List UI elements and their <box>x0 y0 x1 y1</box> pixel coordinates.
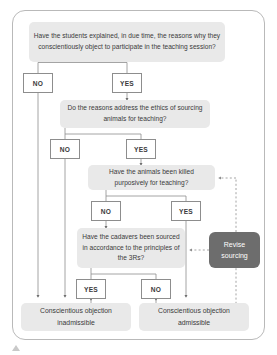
result-node-admissible: Conscientious objection admissible <box>139 303 249 331</box>
choice-q4-yes[interactable]: YES <box>76 279 106 299</box>
question-node-q2: Do the reasons address the ethics of sou… <box>60 100 210 128</box>
choice-q1-no[interactable]: NO <box>23 73 53 93</box>
choice-q3-yes[interactable]: YES <box>171 201 201 221</box>
choice-q2-no[interactable]: NO <box>50 139 80 159</box>
flowchart-canvas: Have the students explained, in due time… <box>0 0 277 355</box>
action-node-revise-sourcing[interactable]: Revise sourcing <box>209 232 260 268</box>
result-node-inadmissible: Conscientious objection inadmissible <box>21 303 131 331</box>
choice-q2-yes[interactable]: YES <box>126 139 156 159</box>
choice-q3-no[interactable]: NO <box>91 201 121 221</box>
question-node-q3: Have the animals been killed purposively… <box>88 165 215 190</box>
scroll-caret-icon <box>12 345 20 351</box>
question-node-q4: Have the cadavers been sourced in accord… <box>77 228 185 268</box>
choice-q1-yes[interactable]: YES <box>112 73 142 93</box>
question-node-q1: Have the students explained, in due time… <box>29 22 225 62</box>
choice-q4-no[interactable]: NO <box>141 279 171 299</box>
